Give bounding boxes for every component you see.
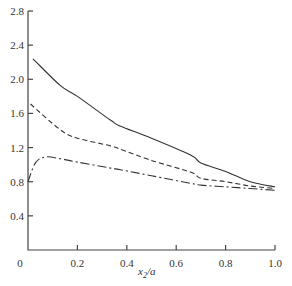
x-axis-label: x2/a [137, 265, 156, 280]
y-tick-label: 1.2 [10, 142, 24, 154]
series-dash-dot [28, 157, 275, 191]
x-tick-label: 0.2 [71, 257, 85, 269]
x-tick-label: 1.0 [268, 257, 282, 269]
axis-lines [28, 11, 275, 250]
chart: 0.40.81.21.62.02.42.800.20.40.60.81.0 x2… [0, 0, 292, 286]
y-tick-label: 2.0 [10, 73, 24, 85]
x-tick-label: 0.4 [120, 257, 134, 269]
y-tick-label: 0.8 [10, 176, 24, 188]
x-tick-label: 0 [17, 257, 23, 269]
series-solid [33, 59, 275, 187]
y-tick-label: 1.6 [10, 107, 24, 119]
series-lines [28, 59, 275, 191]
x-tick-label: 0.8 [219, 257, 233, 269]
y-tick-label: 2.4 [10, 39, 24, 51]
y-tick-label: 2.8 [10, 5, 24, 17]
axes: 0.40.81.21.62.02.42.800.20.40.60.81.0 [10, 5, 282, 269]
x-tick-label: 0.6 [169, 257, 183, 269]
y-tick-label: 0.4 [10, 210, 24, 222]
